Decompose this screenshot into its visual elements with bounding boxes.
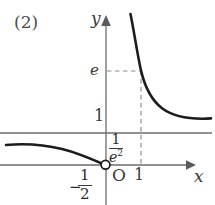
- negative-one-half-minus-sign: −: [69, 180, 82, 196]
- item-number-label: (2): [14, 14, 38, 31]
- y-tick-label-one: 1: [94, 108, 104, 124]
- x-axis-label: x: [194, 168, 204, 185]
- curve-left-branch: [6, 144, 104, 164]
- y-tick-label-e: e: [90, 63, 99, 78]
- inverse-e-squared-numerator: 1: [109, 132, 123, 149]
- y-tick-label-inverse-e-squared: 1 e2: [109, 132, 123, 164]
- inverse-e-squared-exponent: 2: [117, 148, 123, 158]
- curve-right-branch: [131, 14, 212, 119]
- x-tick-label-negative-one-half: − 1 2: [78, 168, 92, 202]
- figure-container: (2) y x e 1 1 e2 O 1 − 1 2: [0, 0, 215, 205]
- x-tick-label-one: 1: [134, 167, 144, 183]
- inverse-e-squared-denominator: e2: [109, 149, 123, 165]
- y-axis-label: y: [91, 10, 101, 27]
- y-axis-arrow-icon: [101, 15, 111, 26]
- origin-label: O: [112, 167, 126, 184]
